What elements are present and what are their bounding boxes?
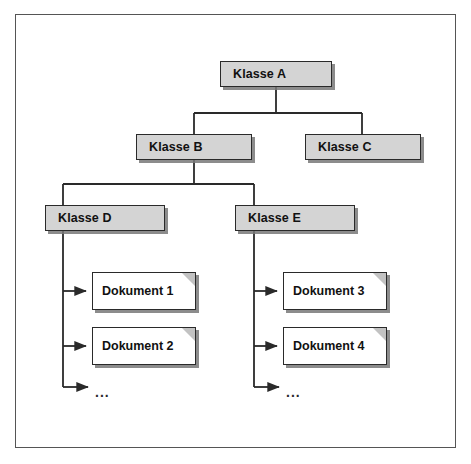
document-node-label: Dokument 1 [102, 284, 174, 298]
page-fold-icon [373, 273, 386, 286]
class-node-klasse-a[interactable]: Klasse A [220, 61, 332, 87]
class-node-klasse-e[interactable]: Klasse E [235, 205, 355, 231]
class-node-label: Klasse E [248, 211, 301, 225]
page-fold-icon [182, 273, 195, 286]
class-node-label: Klasse D [58, 211, 112, 225]
document-node-dokument-4[interactable]: Dokument 4 [283, 327, 387, 365]
page-fold-icon [182, 328, 195, 341]
document-node-dokument-1[interactable]: Dokument 1 [92, 272, 196, 310]
document-node-label: Dokument 2 [102, 339, 174, 353]
document-node-label: Dokument 4 [293, 339, 365, 353]
class-node-label: Klasse C [318, 140, 372, 154]
ellipsis-more-documents-right: ... [286, 385, 301, 399]
class-node-label: Klasse B [149, 140, 203, 154]
class-node-label: Klasse A [233, 67, 286, 81]
document-node-label: Dokument 3 [293, 284, 365, 298]
class-node-klasse-d[interactable]: Klasse D [45, 205, 165, 231]
ellipsis-more-documents-left: ... [95, 385, 110, 399]
diagram-canvas: Klasse A Klasse B Klasse C Klasse D Klas… [0, 0, 471, 464]
page-fold-icon [373, 328, 386, 341]
document-node-dokument-2[interactable]: Dokument 2 [92, 327, 196, 365]
class-node-klasse-b[interactable]: Klasse B [136, 134, 252, 160]
class-node-klasse-c[interactable]: Klasse C [305, 134, 421, 160]
document-node-dokument-3[interactable]: Dokument 3 [283, 272, 387, 310]
